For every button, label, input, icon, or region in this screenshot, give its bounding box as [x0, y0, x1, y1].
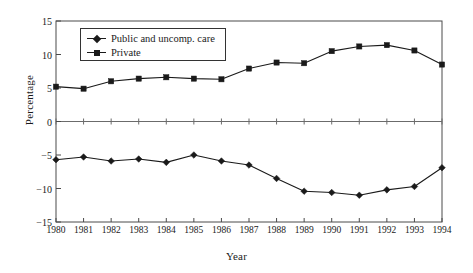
x-tick-label: 1988 [267, 225, 286, 235]
x-tick-label: 1986 [212, 225, 231, 235]
y-tick-label: 15 [26, 16, 52, 27]
legend-label-private: Private [111, 47, 141, 58]
x-tick-label: 1989 [295, 225, 314, 235]
chart-legend: Public and uncomp. care Private [80, 28, 226, 61]
legend-item-private: Private [87, 45, 141, 60]
legend-item-public: Public and uncomp. care [87, 31, 215, 46]
x-tick-label: 1987 [240, 225, 259, 235]
x-tick-label: 1991 [350, 225, 369, 235]
x-tick-label: 1992 [377, 225, 396, 235]
y-axis-title: Percentage [23, 55, 35, 145]
x-tick-label: 1980 [47, 225, 66, 235]
x-tick-label: 1984 [157, 225, 176, 235]
x-axis-ticks [56, 119, 442, 223]
x-tick-label: 1981 [74, 225, 93, 235]
diamond-marker-icon [87, 34, 106, 43]
x-axis-title: Year [0, 250, 473, 262]
line-chart-plot [0, 0, 473, 273]
y-tick-label: −5 [26, 150, 52, 161]
x-tick-label: 1994 [433, 225, 452, 235]
y-axis-ticks [56, 21, 61, 222]
series-public [53, 152, 446, 199]
x-tick-label: 1985 [184, 225, 203, 235]
x-tick-label: 1983 [129, 225, 148, 235]
square-marker-icon [87, 48, 106, 57]
x-tick-label: 1982 [102, 225, 121, 235]
x-tick-label: 1990 [322, 225, 341, 235]
legend-label-public: Public and uncomp. care [111, 33, 215, 44]
x-tick-label: 1993 [405, 225, 424, 235]
chart-container: −15−10−5051015 1980198119821983198419851… [0, 0, 473, 273]
y-tick-label: −10 [26, 183, 52, 194]
